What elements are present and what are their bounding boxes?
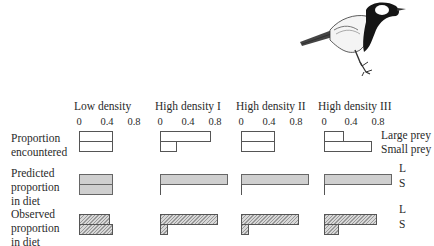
panel-header-high-density-2: High density II: [236, 100, 306, 112]
bar-pred-zero-stub-panel-1: [160, 184, 161, 195]
panel-header-low-density: Low density: [74, 100, 131, 112]
bar-enc-small-prey-panel-1: [160, 141, 177, 152]
bar-enc-small-prey-panel-2: [241, 141, 275, 152]
label-S-predicted: S: [399, 177, 405, 189]
bar-obs-l-panel-1: [160, 214, 218, 225]
bar-pred-zero-stub-panel-3: [324, 184, 325, 195]
row-label-predicted: Predicted proportion in diet: [11, 166, 60, 208]
bar-pred-zero-stub-panel-2: [241, 184, 242, 195]
legend-large-prey: Large prey: [381, 129, 431, 141]
bar-pred-s-panel-0: [79, 184, 113, 195]
bar-pred-l-panel-2: [241, 174, 309, 185]
label-S-observed: S: [399, 218, 405, 230]
bar-obs-s-panel-0: [79, 224, 113, 235]
bird-illustration-icon: [300, 0, 410, 90]
bar-obs-s-panel-1: [160, 224, 168, 235]
row-label-observed: Observed proportion in diet: [11, 207, 60, 246]
bar-obs-s-panel-3: [324, 224, 339, 235]
bar-obs-s-panel-2: [241, 224, 249, 235]
row-label-encountered: Proportion encountered: [11, 131, 67, 159]
panel-header-high-density-3: High density III: [318, 100, 391, 112]
label-L-predicted: L: [399, 162, 406, 174]
bar-obs-l-panel-2: [241, 214, 299, 225]
bar-enc-small-prey-panel-0: [79, 141, 113, 152]
label-L-observed: L: [399, 203, 406, 215]
bar-pred-l-panel-3: [324, 174, 392, 185]
legend-small-prey: Small prey: [381, 143, 431, 155]
bar-enc-small-prey-panel-3: [324, 141, 372, 152]
bar-pred-l-panel-1: [160, 174, 228, 185]
panel-header-high-density-1: High density I: [155, 100, 221, 112]
